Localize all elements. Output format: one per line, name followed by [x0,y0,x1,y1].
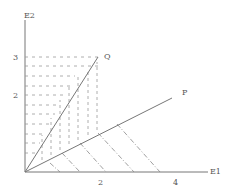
q-label: Q [104,52,111,61]
x-tick-4: 4 [173,178,178,187]
y-tick-3: 3 [13,53,18,62]
vertical-hatching [42,62,97,160]
e2-label: E2 [24,11,35,20]
ray-q [25,57,98,172]
ray-p [25,98,172,172]
cone-diagram: E2 E1 Q P 3 2 2 4 [0,0,230,194]
horizontal-hatching [25,57,98,153]
p-label: P [182,88,188,97]
x-tick-2: 2 [98,178,103,187]
e1-label: E1 [210,167,221,176]
y-tick-2: 2 [13,91,18,100]
